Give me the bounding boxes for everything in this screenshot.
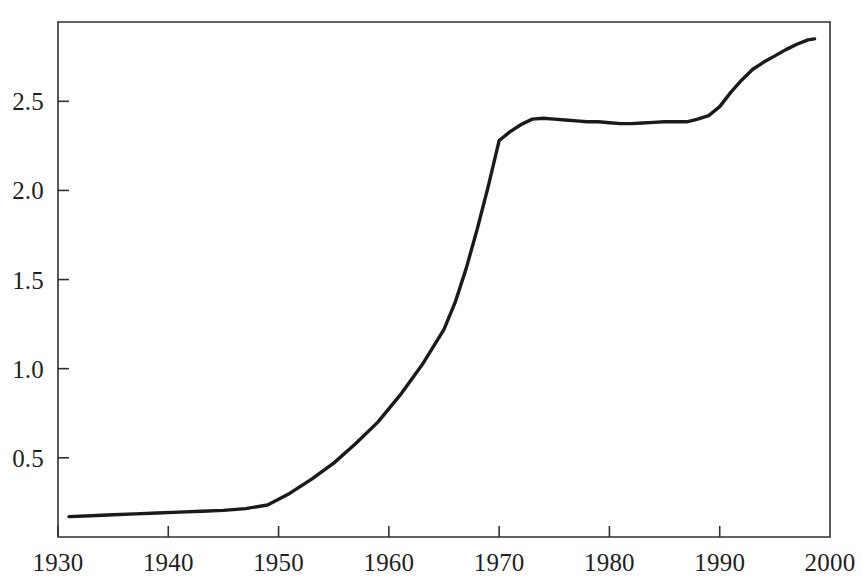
x-tick-label: 1930 [33, 550, 84, 575]
data-series-group [69, 39, 815, 517]
x-axis-ticks [58, 526, 720, 537]
y-tick-label: 2.0 [0, 178, 44, 203]
line-chart: 0.51.01.52.02.5 193019401950196019701980… [0, 0, 863, 588]
x-tick-label: 2000 [805, 550, 856, 575]
x-tick-label: 1970 [474, 550, 525, 575]
y-axis-ticks [58, 101, 69, 457]
y-tick-label: 1.0 [0, 356, 44, 381]
x-tick-label: 1980 [584, 550, 635, 575]
x-tick-label: 1960 [363, 550, 414, 575]
y-tick-label: 2.5 [0, 89, 44, 114]
y-tick-label: 1.5 [0, 267, 44, 292]
x-tick-label: 1950 [253, 550, 304, 575]
axis-frame [58, 22, 830, 537]
plot-area [0, 0, 863, 588]
x-tick-label: 1940 [143, 550, 194, 575]
data-line-1 [69, 39, 815, 517]
y-tick-label: 0.5 [0, 445, 44, 470]
chart-axes [58, 22, 830, 537]
x-tick-label: 1990 [694, 550, 745, 575]
